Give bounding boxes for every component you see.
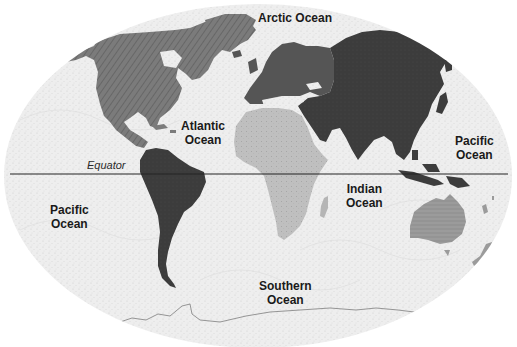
label-southern-ocean: Southern Ocean (259, 279, 312, 307)
label-pacific-west-line2: Ocean (50, 217, 89, 231)
label-pacific-ocean-west: Pacific Ocean (50, 203, 89, 231)
label-pacific-ocean-east: Pacific Ocean (455, 134, 494, 162)
label-indian-line2: Ocean (346, 196, 383, 210)
label-southern-line2: Ocean (259, 293, 312, 307)
label-southern-line1: Southern (259, 279, 312, 293)
label-atlantic-ocean: Atlantic Ocean (181, 119, 225, 147)
label-pacific-east-line1: Pacific (455, 134, 494, 148)
label-pacific-west-line1: Pacific (50, 203, 89, 217)
label-indian-line1: Indian (346, 182, 383, 196)
label-atlantic-line2: Ocean (181, 133, 225, 147)
equator-label: Equator (87, 159, 126, 171)
label-arctic-ocean: Arctic Ocean (258, 11, 332, 25)
label-arctic-line1: Arctic Ocean (258, 11, 332, 25)
label-atlantic-line1: Atlantic (181, 119, 225, 133)
label-pacific-east-line2: Ocean (455, 148, 494, 162)
label-indian-ocean: Indian Ocean (346, 182, 383, 210)
